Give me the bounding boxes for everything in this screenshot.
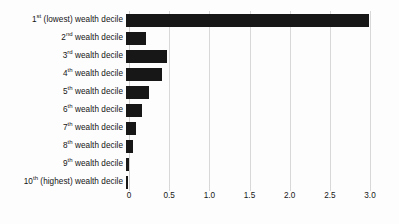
bar	[126, 14, 369, 27]
x-tick-label: 0	[127, 192, 132, 200]
bar	[126, 158, 129, 171]
category-label: 10th (highest) wealth decile	[0, 178, 126, 186]
chart-row: 6th wealth decile	[0, 101, 399, 119]
category-label: 4th wealth decile	[0, 70, 126, 78]
bar	[126, 32, 146, 45]
chart-row: 10th (highest) wealth decile	[0, 173, 399, 191]
ordinal-suffix: st	[37, 13, 42, 19]
bar-track	[126, 29, 399, 47]
category-label: 3rd wealth decile	[0, 52, 126, 60]
x-tick-label: 1.0	[204, 192, 215, 200]
chart-row: 8th wealth decile	[0, 137, 399, 155]
ordinal-suffix: th	[68, 121, 73, 127]
bar-track	[126, 155, 399, 173]
x-tick-label: 3.0	[364, 192, 375, 200]
chart-row: 7th wealth decile	[0, 119, 399, 137]
ordinal-suffix: th	[68, 67, 73, 73]
bar-track	[126, 83, 399, 101]
category-label: 9th wealth decile	[0, 160, 126, 168]
bar	[126, 122, 136, 135]
bar-track	[126, 47, 399, 65]
x-tick-label: 0.5	[163, 192, 174, 200]
bar	[126, 176, 128, 189]
ordinal-suffix: th	[68, 85, 73, 91]
category-label: 6th wealth decile	[0, 106, 126, 114]
chart-row: 1st (lowest) wealth decile	[0, 11, 399, 29]
bar-track	[126, 173, 399, 191]
chart-row: 3rd wealth decile	[0, 47, 399, 65]
bar-track	[126, 137, 399, 155]
ordinal-suffix: th	[68, 157, 73, 163]
chart-row: 5th wealth decile	[0, 83, 399, 101]
bar-track	[126, 101, 399, 119]
bar-track	[126, 65, 399, 83]
category-label: 7th wealth decile	[0, 124, 126, 132]
bar	[126, 68, 162, 81]
bar	[126, 50, 167, 63]
x-tick-label: 1.5	[244, 192, 255, 200]
chart-row: 4th wealth decile	[0, 65, 399, 83]
ordinal-suffix: th	[33, 175, 38, 181]
ordinal-suffix: th	[68, 139, 73, 145]
bar-track	[126, 11, 399, 29]
x-axis-tick-labels: 00.51.01.52.02.53.0	[0, 192, 399, 206]
bar	[126, 86, 149, 99]
chart-row: 2nd wealth decile	[0, 29, 399, 47]
category-label: 5th wealth decile	[0, 88, 126, 96]
bar-chart: 1st (lowest) wealth decile2nd wealth dec…	[0, 0, 399, 224]
chart-row: 9th wealth decile	[0, 155, 399, 173]
bar-track	[126, 119, 399, 137]
bar	[126, 140, 133, 153]
bar	[126, 104, 142, 117]
x-tick-label: 2.5	[324, 192, 335, 200]
category-label: 1st (lowest) wealth decile	[0, 16, 126, 24]
category-label: 8th wealth decile	[0, 142, 126, 150]
ordinal-suffix: nd	[66, 31, 73, 37]
ordinal-suffix: th	[68, 103, 73, 109]
chart-bar-rows: 1st (lowest) wealth decile2nd wealth dec…	[0, 11, 399, 191]
category-label: 2nd wealth decile	[0, 34, 126, 42]
x-tick-label: 2.0	[284, 192, 295, 200]
ordinal-suffix: rd	[67, 49, 72, 55]
